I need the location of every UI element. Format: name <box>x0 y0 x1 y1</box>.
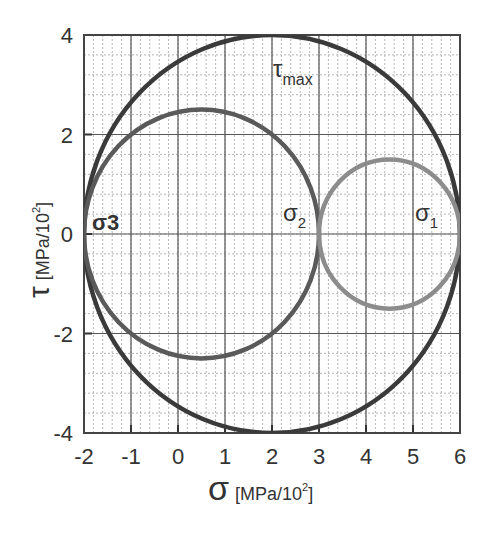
y-tick-label: -4 <box>53 421 73 446</box>
x-tick-label: -2 <box>74 444 94 469</box>
x-tick-label: 5 <box>407 444 419 469</box>
x-tick-label: 3 <box>313 444 325 469</box>
mohr-circle-chart: -2-10123456 420-2-4 τmax σ3 σ2 σ1 σ[MPa/… <box>0 0 491 534</box>
y-tick-label: 0 <box>61 222 73 247</box>
x-tick-label: 2 <box>266 444 278 469</box>
sigma3-label: σ3 <box>92 210 119 235</box>
x-tick-label: -1 <box>121 444 141 469</box>
y-tick-label: -2 <box>53 322 73 347</box>
x-tick-label: 6 <box>454 444 466 469</box>
y-axis-ticks: 420-2-4 <box>53 23 73 446</box>
x-tick-label: 4 <box>360 444 372 469</box>
x-tick-label: 1 <box>219 444 231 469</box>
y-tick-label: 4 <box>61 23 73 48</box>
y-tick-label: 2 <box>61 123 73 148</box>
tau-max-label: τmax <box>273 55 313 88</box>
sigma1-label: σ1 <box>415 199 438 231</box>
x-tick-label: 0 <box>172 444 184 469</box>
y-axis-label: τ[MPa/102] <box>22 202 55 298</box>
x-axis-ticks: -2-10123456 <box>74 444 466 469</box>
x-axis-label: σ[MPa/102] <box>208 469 313 507</box>
sigma2-label: σ2 <box>283 199 306 231</box>
